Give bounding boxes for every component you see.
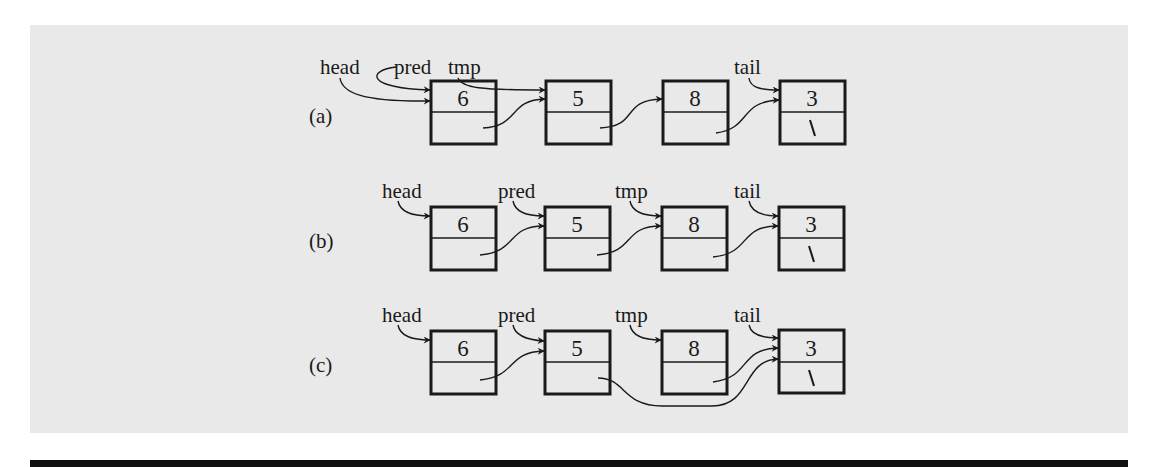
next-link-arrow [713,348,778,382]
head-label: head [382,179,422,203]
row-tag: (c) [309,353,332,377]
node: 3 [779,330,844,393]
pred-label: pred [394,55,432,79]
head-label: head [320,55,360,79]
null-pointer-icon [809,246,814,262]
node-value: 6 [457,336,469,361]
node: 3 [780,81,845,144]
node-value: 3 [805,336,817,361]
node-value: 8 [688,212,700,237]
next-link-arrow [480,226,544,255]
next-link-arrow [716,100,779,133]
pred-arrow [513,325,544,341]
tail-arrow [749,78,779,90]
row-a: (a) head pred tmp tail 6 5 8 3 [309,55,845,144]
node: 6 [431,207,496,270]
node-value: 5 [571,336,583,361]
tmp-arrow [630,325,661,340]
node-value: 6 [457,86,469,111]
node: 6 [431,331,496,394]
head-arrow [398,201,430,216]
node-value: 8 [689,86,701,111]
next-link-arrow [483,99,545,128]
linked-list-diagram: (a) head pred tmp tail 6 5 8 3 [0,0,1161,467]
null-pointer-icon [810,120,815,136]
head-label: head [382,303,422,327]
node: 5 [546,81,611,144]
node: 5 [545,207,610,270]
node: 8 [662,331,727,394]
node: 5 [545,331,610,394]
tmp-label: tmp [448,55,481,79]
next-link-arrow [597,226,661,255]
node-value: 5 [572,86,584,111]
node: 6 [431,81,496,144]
tmp-label: tmp [615,303,648,327]
head-arrow [398,325,430,340]
tail-label: tail [734,55,761,79]
row-tag: (b) [309,229,334,253]
node-value: 3 [805,212,817,237]
node-value: 5 [571,212,583,237]
node-value: 3 [806,86,818,111]
node: 8 [662,207,727,270]
pred-arrow [513,201,544,216]
node-value: 8 [688,336,700,361]
tail-arrow [749,201,778,216]
next-link-arrow [600,99,662,128]
next-link-arrow [713,226,778,257]
pred-label: pred [498,303,536,327]
tail-label: tail [734,303,761,327]
row-c: (c) head pred tmp tail 6 5 8 3 [309,303,844,406]
null-pointer-icon [809,370,814,386]
tail-label: tail [734,179,761,203]
pred-label: pred [498,179,536,203]
tmp-label: tmp [615,179,648,203]
bypass-link-arrow [598,359,778,406]
node: 8 [663,81,728,144]
next-link-arrow [480,351,544,380]
node: 3 [779,207,844,270]
node-value: 6 [457,212,469,237]
row-b: (b) head pred tmp tail 6 5 8 3 [309,179,844,270]
tmp-arrow [630,201,661,216]
row-tag: (a) [309,104,332,128]
